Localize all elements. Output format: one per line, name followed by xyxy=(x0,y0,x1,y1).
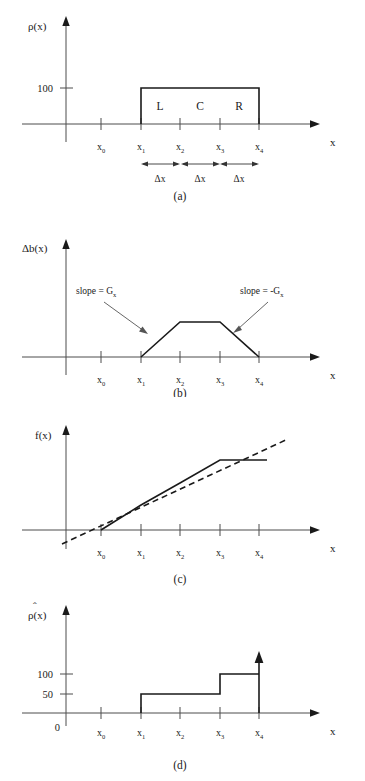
panel-a-y-axis-label: ρ(x) xyxy=(28,20,47,33)
panel-d-origin-label: 0 xyxy=(55,722,60,733)
panel-c-y-axis-label: f(x) xyxy=(35,429,52,442)
panel-d: ρ(x) ˆ x 100 50 0 x0 x1 x2 x3 x4 xyxy=(0,589,365,781)
panel-d-spike-arrow xyxy=(255,651,264,663)
panel-b-x-axis-arrow xyxy=(310,353,320,360)
panel-d-x-axis-arrow xyxy=(310,709,320,716)
panel-c: f(x) x x0 x1 x2 x3 x4 (c) xyxy=(0,397,365,589)
panel-b-slope-label-left: slope = Gx xyxy=(76,286,117,298)
panel-b-caption: (b) xyxy=(173,387,187,397)
panel-b-x-tick-label-0: x0 xyxy=(97,374,105,387)
panel-b-slope-label-right: slope = -Gx xyxy=(240,286,284,298)
panel-d-caption: (d) xyxy=(173,759,187,772)
panel-b-x-tick-label-1: x1 xyxy=(137,374,145,387)
panel-c-signal-curve xyxy=(101,460,267,530)
panel-a-dimension-arrows xyxy=(141,162,259,167)
panel-d-y-value-label-50: 50 xyxy=(43,689,54,700)
panel-a-x-axis-label: x xyxy=(330,136,336,148)
panel-d-y-axis-arrow xyxy=(62,605,69,615)
panel-d-x-tick-label-4: x4 xyxy=(255,727,264,740)
panel-a-caption: (a) xyxy=(174,190,187,203)
panel-d-y-value-label-100: 100 xyxy=(37,669,53,680)
panel-c-x-tick-label-0: x0 xyxy=(97,547,105,560)
panel-a-region-label-L: L xyxy=(156,100,163,112)
panel-a-x-tick-label-1: x1 xyxy=(137,141,145,154)
panel-a-region-label-C: C xyxy=(196,100,204,112)
panel-a-x-axis-arrow xyxy=(310,120,320,127)
panel-a-x-tick-label-0: x0 xyxy=(97,141,105,154)
panel-d-y-axis-hat: ˆ xyxy=(33,600,37,612)
panel-c-y-axis-arrow xyxy=(62,425,69,435)
panel-d-x-axis-label: x xyxy=(330,725,336,737)
panel-d-x-tick-label-1: x1 xyxy=(137,727,145,740)
panel-b-x-tick-label-4: x4 xyxy=(255,374,264,387)
panel-c-x-axis-arrow xyxy=(310,526,320,533)
panel-a-dx-label-1: Δx xyxy=(195,174,206,184)
figure-container: 100 ρ(x) x x0 x1 x2 x3 x4 L C R xyxy=(0,0,365,781)
panel-a-dx-label-2: Δx xyxy=(234,174,245,184)
panel-a: 100 ρ(x) x x0 x1 x2 x3 x4 L C R xyxy=(0,0,365,205)
panel-a-x-tick-label-2: x2 xyxy=(176,141,184,154)
panel-c-x-tick-label-4: x4 xyxy=(255,547,264,560)
panel-a-y-axis-arrow xyxy=(62,16,69,26)
panel-c-x-tick-label-1: x1 xyxy=(137,547,145,560)
panel-d-x-tick-label-3: x3 xyxy=(216,727,224,740)
panel-b-leader-left xyxy=(104,302,144,331)
panel-d-x-tick-label-2: x2 xyxy=(176,727,184,740)
panel-a-region-label-R: R xyxy=(235,100,243,112)
panel-b: Δb(x) x x0 x1 x2 x3 x4 slope = Gx xyxy=(0,205,365,397)
panel-a-dx-label-0: Δx xyxy=(155,174,166,184)
panel-d-step-histogram xyxy=(141,674,259,713)
panel-a-x-tick-label-4: x4 xyxy=(255,141,264,154)
panel-b-trapezoid-curve xyxy=(141,322,259,357)
panel-b-x-tick-label-2: x2 xyxy=(176,374,184,387)
panel-b-leader-left-arrow xyxy=(139,327,148,335)
panel-b-y-axis-arrow xyxy=(62,239,69,249)
panel-d-y-axis-label: ρ(x) xyxy=(28,609,47,622)
panel-c-x-tick-label-2: x2 xyxy=(176,547,184,560)
panel-b-y-axis-label: Δb(x) xyxy=(22,242,48,255)
panel-c-caption: (c) xyxy=(174,573,187,586)
panel-d-x-tick-label-0: x0 xyxy=(97,727,105,740)
panel-b-x-tick-label-3: x3 xyxy=(216,374,224,387)
panel-b-leader-right xyxy=(238,302,268,329)
panel-a-y-value-label: 100 xyxy=(37,83,53,94)
panel-c-x-axis-label: x xyxy=(330,542,336,554)
panel-a-x-tick-label-3: x3 xyxy=(216,141,224,154)
panel-c-reference-line xyxy=(62,439,288,544)
panel-b-x-axis-label: x xyxy=(330,369,336,381)
panel-c-x-tick-label-3: x3 xyxy=(216,547,224,560)
